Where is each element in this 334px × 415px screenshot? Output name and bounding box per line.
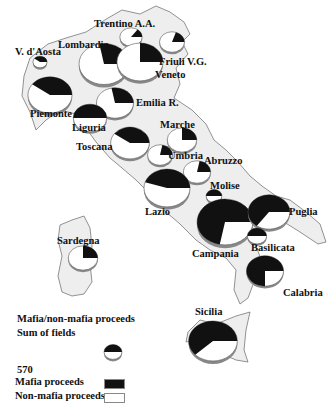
pie-toscana (111, 127, 150, 161)
label-abruzzo: Abruzzo (204, 155, 243, 166)
label-liguria: Liguria (72, 122, 107, 133)
legend-mafia-slice (104, 345, 122, 352)
label-basilicata: Basilicata (251, 242, 295, 253)
label-calabria: Calabria (283, 287, 323, 298)
legend-mafia-swatch (104, 379, 125, 389)
pie-friuli-v-g (160, 32, 185, 55)
label-umbria: Umbria (168, 150, 204, 161)
pie-campania (197, 199, 253, 248)
pie-calabria (246, 256, 283, 289)
label-lombardia: Lombardia (58, 39, 110, 50)
legend-reference-pie (104, 345, 122, 362)
legend-subtitle: Sum of fields (17, 327, 75, 338)
pie-puglia (248, 195, 290, 232)
legend-mafia-label: Mafia proceeds (15, 376, 84, 387)
legend-non-mafia-swatch (104, 393, 125, 403)
label-campania: Campania (192, 248, 239, 259)
pie-sardegna (68, 246, 98, 272)
label-v-d-aosta: V. d'Aosta (15, 46, 62, 57)
label-lazio: Lazio (145, 206, 170, 217)
label-molise: Molise (210, 180, 240, 191)
italy-pie-map: LombardiaTrentino A.A.V. d'AostaFriuli V… (0, 0, 334, 415)
label-emilia-r: Emilia R. (136, 97, 179, 108)
label-friuli-v-g: Friuli V.G. (159, 56, 207, 67)
pie-v-d-aosta (33, 56, 47, 70)
label-piemonte: Piemonte (30, 108, 72, 119)
legend-title: Mafia/non-mafia proceeds (17, 313, 135, 324)
sardegna-mafia-slice (83, 246, 98, 258)
legend-reference-value: 570 (17, 364, 33, 375)
legend-non-mafia-label: Non-mafia proceeds (15, 390, 105, 401)
label-marche: Marche (160, 119, 195, 130)
label-sicilia: Sicilia (195, 306, 223, 317)
label-toscana: Toscana (76, 141, 113, 152)
label-trentino-a-a: Trentino A.A. (94, 18, 156, 29)
pie-sicilia (189, 321, 238, 364)
label-veneto: Veneto (155, 69, 186, 80)
label-sardegna: Sardegna (57, 235, 100, 246)
label-puglia: Puglia (289, 206, 318, 217)
pie-lazio (144, 169, 190, 210)
